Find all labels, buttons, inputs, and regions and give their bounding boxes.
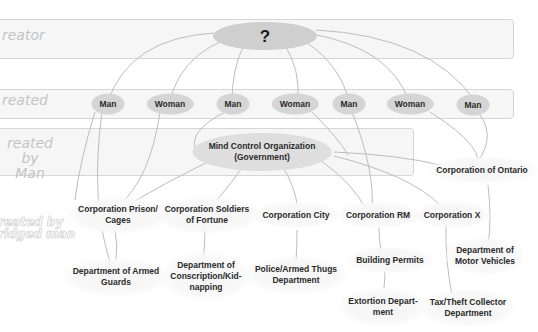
creator-node: ? [213,22,317,50]
corporation-rm-label: Corporation RM [346,210,410,221]
corporation-prison-line1: Corporation Prison/ [78,204,158,215]
corporation-soldiers: Corporation Soldiers of Fortune [155,196,260,234]
corporation-x-label: Corporation X [424,210,481,221]
department-armed-guards-line1: Department of Armed [73,266,160,277]
corporation-prison-line2: Cages [78,215,158,226]
department-armed-guards: Department of Armed Guards [63,258,170,296]
department-tax-theft: Tax/Theft Collector Department [420,289,516,327]
department-conscription: Department of Conscription/Kid- napping [160,252,251,301]
department-conscription-line3: napping [170,282,241,293]
created-node-man-3: Man [333,94,366,115]
corporation-soldiers-line2: of Fortune [165,215,250,226]
department-police: Police/Armed Thugs Department [245,256,347,294]
corporation-x: Corporation X [414,202,491,229]
corporation-city: Corporation City [252,202,339,229]
corporation-soldiers-line1: Corporation Soldiers [165,204,250,215]
department-extortion-line1: Extortion Depart- [348,296,417,307]
department-armed-guards-line2: Guards [73,277,160,288]
department-motor-vehicles-line2: Motor Vehicles [455,256,515,267]
department-conscription-line1: Department of [170,260,241,271]
creator-question-mark: ? [260,31,270,42]
department-building-permits: Building Permits [346,247,434,274]
department-building-permits-label: Building Permits [356,255,424,266]
created-node-man-4: Man [457,95,490,116]
department-motor-vehicles-line1: Department of [455,245,515,256]
department-conscription-line2: Conscription/Kid- [170,271,241,282]
created-node-man-1: Man [92,94,125,115]
government-line2: (Government) [209,152,316,163]
corporation-rm: Corporation RM [336,202,420,229]
government-node: Mind Control Organization (Government) [193,133,332,171]
department-police-line2: Department [255,275,337,286]
department-extortion: Extortion Depart- ment [338,288,427,326]
created-node-woman-2: Woman [272,94,319,115]
created-node-woman-1: Woman [147,94,194,115]
department-police-line1: Police/Armed Thugs [255,264,337,275]
department-motor-vehicles: Department of Motor Vehicles [445,237,525,275]
created-node-woman-3: Woman [387,94,434,115]
corporation-prison: Corporation Prison/ Cages [68,196,168,234]
department-tax-theft-line2: Department [430,308,506,319]
corporation-ontario-label: Corporation of Ontario [436,165,528,176]
government-line1: Mind Control Organization [209,141,316,152]
corporation-ontario: Corporation of Ontario [426,157,538,184]
created-node-man-2: Man [217,94,250,115]
department-tax-theft-line1: Tax/Theft Collector [430,297,506,308]
corporation-city-label: Corporation City [262,210,329,221]
department-extortion-line2: ment [348,307,417,318]
